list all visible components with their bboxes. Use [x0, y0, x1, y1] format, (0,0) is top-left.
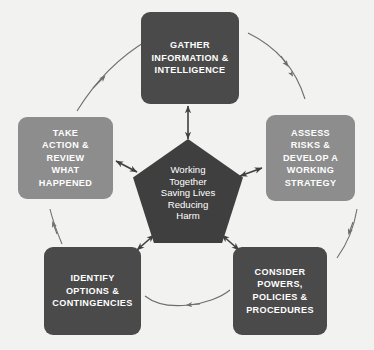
- node-assess-risks-develop-working-strategy[interactable]: ASSESS RISKS & DEVELOP A WORKING STRATEG…: [266, 115, 355, 201]
- node-identify-label: IDENTIFY OPTIONS & CONTINGENCIES: [52, 272, 132, 310]
- node-take-action-review-what-happened[interactable]: TAKE ACTION & REVIEW WHAT HAPPENED: [18, 117, 113, 199]
- cycle-arc-consider-to-identify: [145, 290, 230, 306]
- spoke-arrow-take-action: [116, 161, 137, 172]
- center-line-1: Working: [133, 164, 243, 176]
- center-line-2: Together: [133, 176, 243, 188]
- spoke-arrow-assess: [240, 168, 262, 176]
- node-consider-label: CONSIDER POWERS, POLICIES & PROCEDURES: [246, 266, 314, 316]
- spoke-arrow-identify: [137, 235, 154, 250]
- center-line-5: Harm: [133, 210, 243, 222]
- center-line-4: Reducing: [133, 199, 243, 211]
- center-line-3: Saving Lives: [133, 187, 243, 199]
- center-pentagon[interactable]: Working Together Saving Lives Reducing H…: [133, 139, 243, 243]
- center-pentagon-text: Working Together Saving Lives Reducing H…: [133, 160, 243, 222]
- node-take-action-label: TAKE ACTION & REVIEW WHAT HAPPENED: [39, 127, 92, 190]
- node-assess-label: ASSESS RISKS & DEVELOP A WORKING STRATEG…: [283, 127, 338, 190]
- cycle-arc-gather-to-assess: [248, 33, 305, 99]
- cycle-arc-assess-to-consider: [337, 209, 357, 258]
- node-gather-label: GATHER INFORMATION & INTELLIGENCE: [151, 39, 228, 77]
- node-consider-powers-policies-procedures[interactable]: CONSIDER POWERS, POLICIES & PROCEDURES: [233, 247, 327, 335]
- node-identify-options-contingencies[interactable]: IDENTIFY OPTIONS & CONTINGENCIES: [44, 247, 141, 335]
- cycle-arc-identify-to-take-action: [50, 209, 62, 244]
- cycle-arc-take-action-to-gather: [77, 40, 148, 111]
- national-decision-model-diagram: GATHER INFORMATION & INTELLIGENCE ASSESS…: [0, 0, 374, 350]
- node-gather-information-intelligence[interactable]: GATHER INFORMATION & INTELLIGENCE: [141, 12, 239, 104]
